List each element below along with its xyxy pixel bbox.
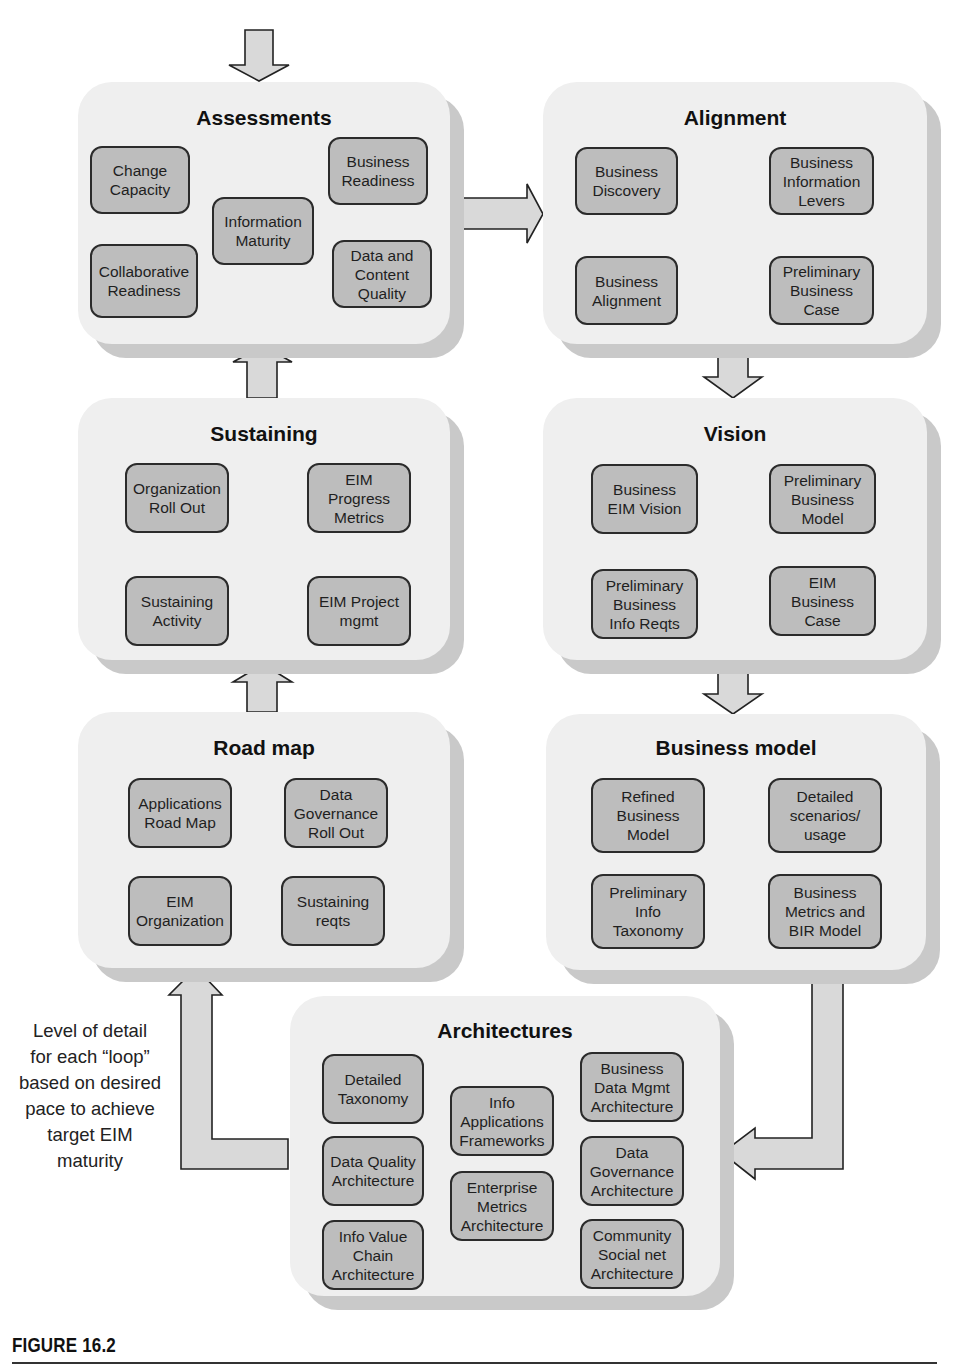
- arrow-down-alignment-vision-icon: [704, 348, 762, 398]
- node-preliminary-business-model: Preliminary Business Model: [769, 464, 876, 534]
- node-business-information-levers: Business Information Levers: [769, 147, 874, 215]
- node-eim-progress-metrics: EIM Progress Metrics: [307, 463, 411, 533]
- node-business-metrics-bir-model: Business Metrics and BIR Model: [768, 874, 882, 949]
- node-info-value-chain-architecture: Info Value Chain Architecture: [322, 1220, 424, 1290]
- panel-vision: Vision Business EIM Vision Preliminary B…: [543, 398, 927, 660]
- panel-architectures: Architectures Detailed Taxonomy Data Qua…: [290, 996, 720, 1296]
- node-detailed-taxonomy: Detailed Taxonomy: [322, 1054, 424, 1124]
- panel-title: Sustaining: [78, 422, 450, 446]
- node-enterprise-metrics-architecture: Enterprise Metrics Architecture: [450, 1171, 554, 1241]
- node-preliminary-business-case: Preliminary Business Case: [769, 256, 874, 325]
- node-detailed-scenarios-usage: Detailed scenarios/ usage: [768, 778, 882, 853]
- arrow-up-sustaining-assessments-icon: [233, 346, 292, 398]
- node-business-eim-vision: Business EIM Vision: [591, 464, 698, 534]
- node-collaborative-readiness: Collaborative Readiness: [90, 244, 198, 318]
- panel-roadmap: Road map Applications Road Map Data Gove…: [78, 712, 450, 968]
- node-data-content-quality: Data and Content Quality: [332, 240, 432, 308]
- arrow-down-vision-businessmodel-icon: [704, 663, 762, 714]
- node-sustaining-reqts: Sustaining reqts: [281, 876, 385, 946]
- arrow-right-assessments-alignment-icon: [450, 184, 543, 243]
- node-change-capacity: Change Capacity: [90, 146, 190, 214]
- panel-business-model: Business model Refined Business Model De…: [546, 714, 926, 970]
- panel-assessments: Assessments Change Capacity Collaborativ…: [78, 82, 450, 344]
- arrow-elbow-architectures-roadmap-icon: [169, 968, 288, 1169]
- node-business-readiness: Business Readiness: [328, 137, 428, 205]
- node-information-maturity: Information Maturity: [212, 197, 314, 265]
- panel-title: Vision: [543, 422, 927, 446]
- node-data-governance-roll-out: Data Governance Roll Out: [284, 778, 388, 848]
- panel-alignment: Alignment Business Discovery Business In…: [543, 82, 927, 344]
- node-refined-business-model: Refined Business Model: [591, 778, 705, 853]
- node-preliminary-info-taxonomy: Preliminary Info Taxonomy: [591, 874, 705, 949]
- caption-rule: [12, 1362, 937, 1364]
- panel-title: Architectures: [290, 1019, 720, 1043]
- node-data-quality-architecture: Data Quality Architecture: [322, 1136, 424, 1206]
- panel-title: Alignment: [543, 106, 927, 130]
- node-community-social-net-architecture: Community Social net Architecture: [580, 1219, 684, 1289]
- node-sustaining-activity: Sustaining Activity: [125, 576, 229, 646]
- node-business-alignment: Business Alignment: [575, 256, 678, 325]
- node-organization-roll-out: Organization Roll Out: [125, 463, 229, 533]
- node-business-discovery: Business Discovery: [575, 147, 678, 215]
- panel-title: Road map: [78, 736, 450, 760]
- arrow-elbow-businessmodel-architectures-icon: [722, 972, 843, 1179]
- panel-sustaining: Sustaining Organization Roll Out EIM Pro…: [78, 398, 450, 660]
- panel-title: Assessments: [78, 106, 450, 130]
- node-applications-road-map: Applications Road Map: [128, 778, 232, 848]
- panel-title: Business model: [546, 736, 926, 760]
- node-info-applications-frameworks: Info Applications Frameworks: [450, 1086, 554, 1156]
- figure-caption: FIGURE 16.2: [12, 1334, 116, 1357]
- arrow-up-roadmap-sustaining-icon: [233, 664, 292, 712]
- entry-arrow-down-icon: [229, 30, 289, 81]
- node-data-governance-architecture: Data Governance Architecture: [580, 1136, 684, 1206]
- node-business-data-mgmt-architecture: Business Data Mgmt Architecture: [580, 1052, 684, 1122]
- node-eim-project-mgmt: EIM Project mgmt: [307, 576, 411, 646]
- node-preliminary-business-info-reqts: Preliminary Business Info Reqts: [591, 569, 698, 639]
- node-eim-business-case: EIM Business Case: [769, 566, 876, 636]
- loop-note: Level of detail for each “loop” based on…: [6, 1018, 174, 1174]
- node-eim-organization: EIM Organization: [128, 876, 232, 946]
